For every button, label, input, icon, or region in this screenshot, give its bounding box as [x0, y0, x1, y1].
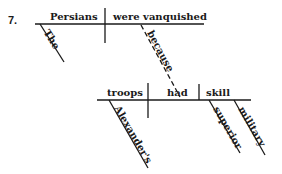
word-persians: Persians: [50, 12, 98, 22]
word-skill: skill: [206, 88, 230, 98]
word-were-vanquished: were vanquished: [113, 12, 207, 22]
word-troops: troops: [107, 88, 143, 98]
word-had: had: [167, 88, 188, 98]
